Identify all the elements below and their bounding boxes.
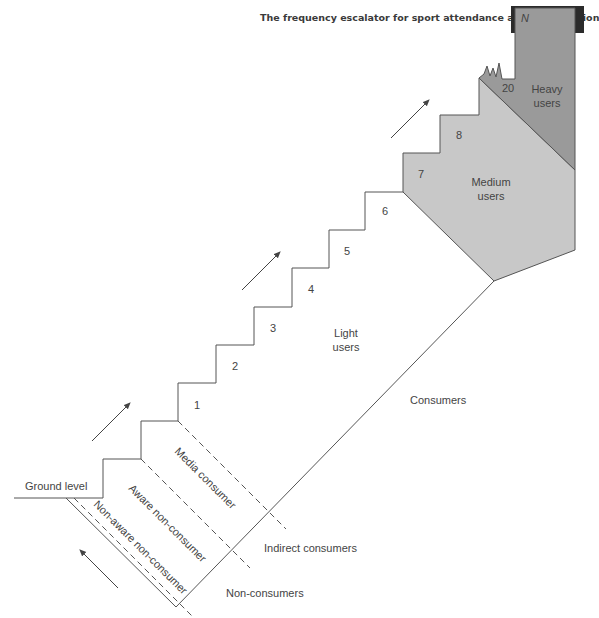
step-number: 5 <box>344 245 350 257</box>
arrow-up-icon <box>242 252 280 290</box>
non-aware-non-consumer-label: Non-aware non-consumer <box>92 498 191 597</box>
non-consumers-label: Non-consumers <box>226 587 304 599</box>
light-users-label: users <box>333 341 360 353</box>
heavy-users-label: Heavy <box>531 83 563 95</box>
light-users-label: Light <box>334 327 358 339</box>
consumers-label: Consumers <box>410 394 467 406</box>
heavy-users-label: users <box>534 97 561 109</box>
step-number-n: N <box>521 12 529 24</box>
arrow-back-icon <box>80 550 118 588</box>
step-number: 6 <box>382 205 388 217</box>
arrow-up-icon <box>391 100 429 138</box>
step-number: 20 <box>502 82 514 94</box>
step-number: 8 <box>456 129 462 141</box>
step-number: 1 <box>194 399 200 411</box>
step-number: 2 <box>232 360 238 372</box>
indirect-consumers-label: Indirect consumers <box>264 542 357 554</box>
arrow-up-icon <box>92 403 130 441</box>
ground-level-label: Ground level <box>25 480 87 492</box>
step-number: 3 <box>270 322 276 334</box>
dashed-line-non-aware <box>74 498 194 618</box>
medium-users-label: Medium <box>471 176 510 188</box>
medium-users-label: users <box>478 190 505 202</box>
step-number: 7 <box>418 168 424 180</box>
step-number: 4 <box>308 283 314 295</box>
media-consumer-label: Media consumer <box>173 445 239 511</box>
